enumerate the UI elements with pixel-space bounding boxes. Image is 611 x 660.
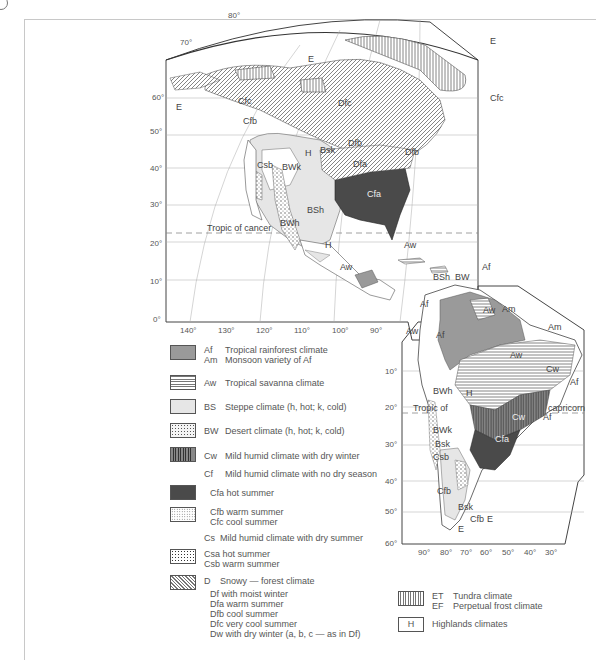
svg-text:Csb: Csb — [433, 452, 449, 462]
legend-item-cfb: Cfb warm summer Cfc cool summer — [170, 507, 400, 533]
svg-text:Aw: Aw — [483, 305, 496, 315]
svg-text:50°: 50° — [502, 548, 514, 557]
legend-item-bs: BS Steppe climate (h, hot; k, cold) — [170, 399, 400, 423]
svg-text:40°: 40° — [150, 164, 162, 173]
svg-text:90°: 90° — [418, 548, 430, 557]
svg-text:Af: Af — [543, 412, 552, 422]
legend-item-et: ET Tundra climate EF Perpetual frost cli… — [398, 591, 598, 617]
legend-swatch-d — [170, 575, 196, 590]
svg-text:Cfc: Cfc — [238, 96, 252, 106]
svg-text:Cfc: Cfc — [490, 93, 504, 103]
svg-text:10°: 10° — [150, 277, 162, 286]
svg-text:Cw: Cw — [512, 412, 525, 422]
legend-item-highlands: H Highlands climates — [398, 617, 598, 641]
svg-text:Cfa: Cfa — [495, 434, 509, 444]
svg-text:100°: 100° — [332, 326, 349, 335]
svg-text:E: E — [487, 514, 493, 524]
svg-text:H: H — [466, 388, 473, 398]
svg-text:Bsk: Bsk — [320, 145, 336, 155]
svg-text:Aw: Aw — [404, 240, 417, 250]
svg-text:90°: 90° — [370, 326, 382, 335]
svg-text:140°: 140° — [180, 326, 197, 335]
legend-swatch-af — [170, 345, 196, 360]
svg-text:Cfa: Cfa — [367, 189, 381, 199]
legend-item-aw: Aw Tropical savanna climate — [170, 375, 400, 399]
svg-text:Cfb: Cfb — [470, 514, 484, 524]
svg-text:Aw: Aw — [340, 262, 353, 272]
svg-text:Bsk: Bsk — [458, 502, 474, 512]
svg-text:Dfb: Dfb — [405, 147, 419, 157]
svg-text:BWh: BWh — [280, 218, 300, 228]
svg-text:Cw: Cw — [546, 364, 559, 374]
legend-item-d-subtypes: Df with moist winter Dfa warm summer Dfb… — [170, 589, 400, 649]
svg-text:130°: 130° — [218, 326, 235, 335]
svg-text:BSh: BSh — [433, 272, 450, 282]
legend-swatch-cfa — [170, 485, 196, 500]
svg-text:110°: 110° — [294, 326, 310, 335]
legend-item-cfa: Cfa hot summer — [170, 485, 400, 507]
legend-swatch-et — [398, 591, 424, 606]
svg-text:BWk: BWk — [282, 162, 301, 172]
svg-text:Aw: Aw — [510, 350, 523, 360]
svg-text:20°: 20° — [150, 239, 162, 248]
svg-text:Am: Am — [548, 322, 562, 332]
legend-item-cw: Cw Mild humid climate with dry winter — [170, 447, 400, 467]
legend-swatch-cs — [170, 549, 196, 564]
svg-text:40°: 40° — [524, 548, 536, 557]
svg-text:30°: 30° — [545, 548, 557, 557]
svg-text:E: E — [176, 102, 182, 112]
svg-text:Af: Af — [420, 299, 429, 309]
svg-text:E: E — [308, 54, 314, 64]
svg-text:E: E — [458, 524, 464, 534]
svg-text:80°: 80° — [440, 548, 452, 557]
climate-legend: Af Tropical rainforest climate Am Monsoo… — [170, 345, 400, 649]
svg-text:0°: 0° — [153, 315, 161, 324]
svg-text:Af: Af — [436, 330, 445, 340]
legend-item-d: D Snowy — forest climate — [170, 575, 400, 589]
svg-text:Dfa: Dfa — [353, 159, 367, 169]
legend-item-bw: BW Desert climate (h, hot; k, cold) — [170, 423, 400, 447]
legend-swatch-aw — [170, 375, 196, 390]
svg-text:Cfb: Cfb — [243, 116, 257, 126]
legend-swatch-bw — [170, 423, 196, 438]
svg-text:60°: 60° — [152, 93, 164, 102]
svg-text:Bsk: Bsk — [435, 439, 451, 449]
svg-text:60°: 60° — [480, 548, 492, 557]
legend-swatch-h: H — [398, 617, 424, 632]
legend-swatch-cw — [170, 447, 196, 462]
svg-text:BW: BW — [455, 272, 470, 282]
svg-text:H: H — [305, 148, 312, 158]
polar-legend: ET Tundra climate EF Perpetual frost cli… — [398, 591, 598, 641]
svg-text:Aw: Aw — [406, 326, 419, 336]
legend-item-cs: Cs Mild humid climate with dry summer — [170, 533, 400, 549]
svg-text:70°: 70° — [180, 38, 192, 47]
svg-text:BWh: BWh — [433, 386, 453, 396]
svg-text:Af: Af — [570, 377, 579, 387]
svg-text:H: H — [325, 240, 332, 250]
legend-swatch-bs — [170, 399, 196, 414]
svg-text:Csb: Csb — [257, 160, 273, 170]
legend-item-csa: Csa hot summer Csb warm summer — [170, 549, 400, 575]
svg-text:BSh: BSh — [307, 205, 324, 215]
svg-text:E: E — [490, 36, 496, 46]
svg-text:120°: 120° — [256, 326, 273, 335]
svg-text:50°: 50° — [150, 127, 162, 136]
svg-text:70°: 70° — [460, 548, 472, 557]
svg-text:30°: 30° — [150, 200, 162, 209]
svg-text:capricorn: capricorn — [548, 403, 585, 413]
legend-swatch-cfb — [170, 507, 196, 522]
svg-text:BWk: BWk — [433, 425, 452, 435]
svg-text:80°: 80° — [228, 11, 240, 20]
svg-text:Tropic of cancer: Tropic of cancer — [207, 223, 271, 233]
svg-text:Af: Af — [482, 262, 491, 272]
svg-text:Am: Am — [502, 304, 516, 314]
svg-text:Cfb: Cfb — [437, 486, 451, 496]
legend-item-af: Af Tropical rainforest climate Am Monsoo… — [170, 345, 400, 375]
svg-text:Dfb: Dfb — [348, 138, 362, 148]
svg-text:Dfc: Dfc — [338, 98, 352, 108]
legend-item-cf: Cf Mild humid climate with no dry season — [170, 467, 400, 485]
svg-text:Tropic of: Tropic of — [413, 403, 448, 413]
